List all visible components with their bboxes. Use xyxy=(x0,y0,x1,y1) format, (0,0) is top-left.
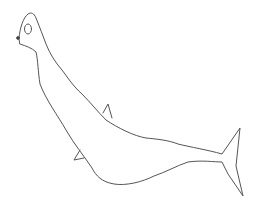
sketch-canvas xyxy=(0,0,272,205)
upper-flipper xyxy=(103,104,112,118)
seal-sketch xyxy=(0,0,272,205)
nose xyxy=(17,37,20,40)
eye xyxy=(25,24,32,34)
head-outline xyxy=(19,13,243,196)
